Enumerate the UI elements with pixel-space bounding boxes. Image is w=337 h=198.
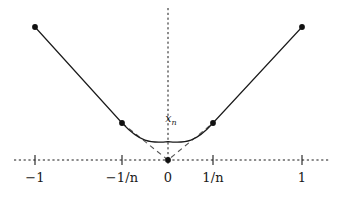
data-point-right-endpoint xyxy=(299,24,305,30)
data-point-left-knot xyxy=(119,120,125,126)
data-point-right-knot xyxy=(210,120,216,126)
tick-label-zero: 0 xyxy=(164,170,172,185)
tick-label-neg-one: −1 xyxy=(25,170,45,185)
tick-label-one-over-n: 1/n xyxy=(202,170,224,185)
curve-label-xn: xn xyxy=(165,112,176,127)
tick-label-one: 1 xyxy=(298,170,306,185)
curve-label-subscript: n xyxy=(172,118,177,127)
plot-canvas xyxy=(0,0,337,198)
math-figure: xn −1 −1/n 0 1/n 1 xyxy=(0,0,337,198)
tick-label-neg-one-over-n: −1/n xyxy=(106,170,139,185)
data-point-left-endpoint xyxy=(32,24,38,30)
data-point-origin xyxy=(165,157,171,163)
